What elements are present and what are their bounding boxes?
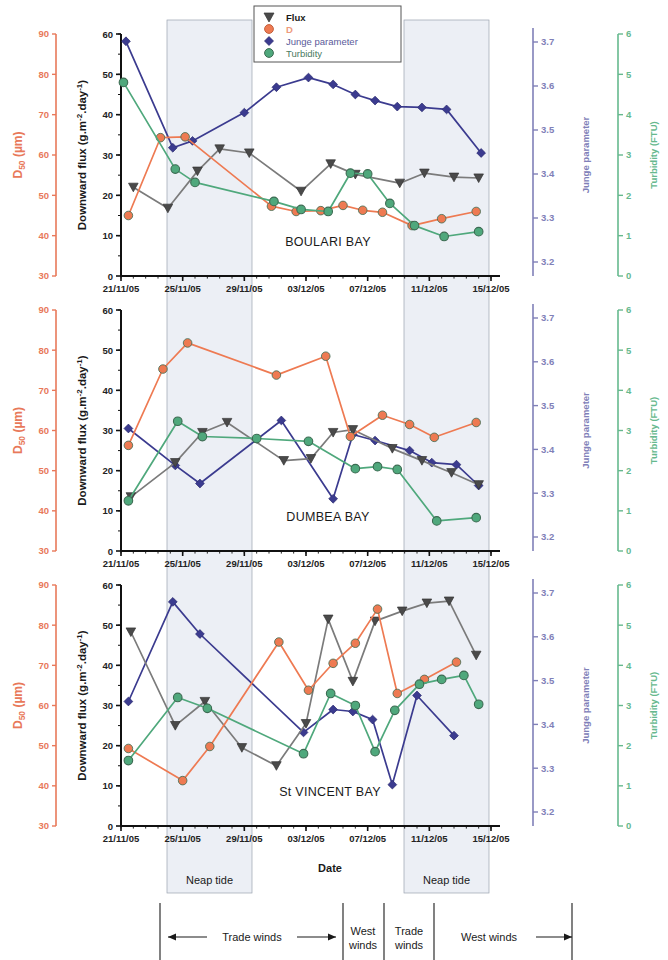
figure-root: 90807060504030D50 (µm)6050403020100Downw… (0, 0, 668, 960)
data-point (324, 207, 333, 216)
d50-tick-label: 30 (38, 820, 49, 831)
x-tick-label: 15/12/05 (473, 283, 511, 294)
data-point (304, 686, 313, 695)
data-point (472, 207, 481, 216)
d50-tick-label: 60 (38, 149, 49, 160)
turbidity-tick-label: 4 (626, 660, 632, 671)
wind-segment-label-cont: winds (348, 939, 378, 951)
turbidity-tick-label: 0 (626, 545, 631, 556)
junge-tick-label: 3.7 (541, 312, 554, 323)
x-axis-title: Date (318, 862, 342, 874)
junge-tick-label: 3.2 (541, 256, 554, 267)
d50-tick-label: 50 (38, 465, 49, 476)
data-point (329, 659, 338, 668)
junge-tick-label: 3.3 (541, 488, 554, 499)
junge-tick-label: 3.3 (541, 212, 554, 223)
data-point (346, 169, 355, 178)
data-point (159, 365, 168, 374)
data-point (124, 744, 133, 753)
x-tick-label: 15/12/05 (473, 833, 511, 844)
flux-tick-label: 10 (102, 505, 113, 516)
data-point (323, 615, 333, 624)
turbidity-tick-label: 1 (626, 230, 632, 241)
junge-tick-label: 3.6 (541, 631, 554, 642)
junge-tick-label: 3.5 (541, 675, 555, 686)
x-tick-label: 29/11/05 (226, 558, 263, 569)
panel-title: DUMBEA BAY (286, 510, 370, 524)
arrow-head-right-icon (328, 934, 336, 941)
junge-axis-title: Junge parameter (580, 392, 591, 469)
x-tick-label: 25/11/05 (164, 558, 201, 569)
legend-label: Flux (286, 12, 306, 23)
d50-tick-label: 50 (38, 190, 49, 201)
turbidity-tick-label: 2 (626, 740, 631, 751)
panel-title: BOULARI BAY (285, 235, 371, 249)
flux-tick-label: 20 (102, 465, 113, 476)
d50-tick-label: 70 (38, 385, 49, 396)
data-point (122, 37, 131, 46)
data-point (368, 715, 377, 724)
data-point (391, 706, 400, 715)
data-point (393, 689, 402, 698)
flux-tick-label: 60 (102, 29, 113, 40)
junge-tick-label: 3.7 (541, 587, 554, 598)
data-point (430, 433, 439, 442)
data-point (183, 339, 192, 348)
data-point (181, 133, 190, 142)
flux-tick-label: 50 (102, 69, 113, 80)
x-tick-label: 21/11/05 (103, 833, 140, 844)
wind-segment-label: Trade winds (222, 931, 282, 943)
x-tick-label: 11/12/05 (411, 283, 448, 294)
turbidity-tick-label: 5 (626, 345, 632, 356)
data-point (346, 432, 355, 441)
flux-tick-label: 30 (102, 425, 113, 436)
data-point (371, 747, 380, 756)
data-point (206, 742, 215, 751)
turbidity-tick-label: 6 (626, 304, 631, 315)
data-point (339, 201, 348, 210)
flux-tick-label: 50 (102, 345, 113, 356)
junge-tick-label: 3.2 (541, 806, 554, 817)
data-point (351, 90, 360, 99)
data-point (386, 199, 395, 208)
turbidity-tick-label: 3 (626, 700, 631, 711)
junge-axis-title: Junge parameter (580, 667, 591, 744)
data-point (395, 179, 405, 188)
legend-circle-icon (265, 25, 274, 34)
turbidity-axis-title: Turbidity (FTU) (648, 397, 659, 464)
flux-tick-label: 50 (102, 620, 113, 631)
x-tick-label: 25/11/05 (164, 833, 201, 844)
d50-tick-label: 70 (38, 109, 49, 120)
data-point (275, 638, 284, 647)
data-point (474, 227, 483, 236)
data-point (126, 628, 136, 637)
d50-axis-title: D50 (µm) (11, 682, 27, 729)
flux-tick-label: 10 (102, 780, 113, 791)
data-point (373, 605, 382, 614)
d50-tick-label: 50 (38, 740, 49, 751)
data-point (129, 183, 139, 192)
data-point (124, 496, 133, 505)
data-point (388, 444, 398, 453)
d50-tick-label: 70 (38, 660, 49, 671)
data-point (437, 675, 446, 684)
neap-tide-label: Neap tide (186, 874, 233, 886)
data-point (198, 432, 207, 441)
data-point (171, 165, 180, 174)
turbidity-tick-label: 4 (626, 385, 632, 396)
d50-tick-label: 90 (38, 304, 49, 315)
legend-label: D (286, 24, 293, 35)
flux-tick-label: 0 (108, 271, 113, 282)
multi-panel-chart: 90807060504030D50 (µm)6050403020100Downw… (0, 0, 668, 960)
x-tick-label: 11/12/05 (411, 833, 448, 844)
turbidity-axis-title: Turbidity (FTU) (648, 121, 659, 188)
legend-circle-icon (265, 49, 274, 58)
x-tick-label: 11/12/05 (411, 558, 448, 569)
junge-tick-label: 3.4 (541, 444, 555, 455)
data-point (252, 434, 261, 443)
junge-tick-label: 3.7 (541, 36, 554, 47)
turbidity-tick-label: 6 (626, 28, 631, 39)
legend-box (254, 6, 401, 62)
data-point (270, 197, 279, 206)
turbidity-tick-label: 4 (626, 109, 632, 120)
